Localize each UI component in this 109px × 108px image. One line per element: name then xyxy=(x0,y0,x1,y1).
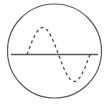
sine-in-circle-diagram xyxy=(0,0,109,108)
figure-container: Sine wave inscribed in circle xyxy=(0,0,109,108)
